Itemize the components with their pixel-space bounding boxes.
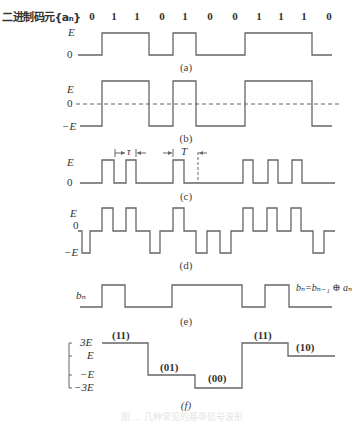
symbol-00: (00)	[208, 373, 226, 384]
label-f-negE: −E	[80, 369, 94, 380]
period-label: T	[181, 146, 187, 157]
caption-d: (d)	[180, 259, 193, 271]
differential-formula: bₙ=bₙ₋₁ ⊕ aₙ	[296, 283, 352, 293]
caption-c: (c)	[180, 190, 192, 202]
label-c-0: 0	[67, 177, 73, 188]
label-f-neg3E: −3E	[74, 382, 94, 393]
label-d-E: E	[70, 208, 77, 219]
caption-b: (b)	[180, 132, 193, 144]
label-a-E: E	[68, 27, 75, 38]
label-b-negE: −E	[62, 121, 76, 132]
tau-label: τ	[127, 147, 131, 157]
waveform-a	[78, 33, 332, 55]
symbol-01: (01)	[160, 362, 178, 373]
label-bn: bₙ	[76, 290, 86, 301]
symbol-10: (10)	[296, 342, 314, 353]
label-f-3E: 3E	[80, 337, 92, 348]
waveform-c	[80, 160, 335, 183]
caption-a: (a)	[180, 61, 192, 73]
label-d-negE: −E	[64, 247, 78, 258]
label-a-0: 0	[67, 49, 73, 60]
label-b-0: 0	[67, 98, 73, 109]
symbol-11-first: (11)	[112, 330, 130, 341]
label-f-E: E	[87, 350, 94, 361]
caption-e: (e)	[180, 315, 192, 327]
figure-caption: 图 … 几种常见的基带信号波形	[121, 410, 244, 423]
symbol-11-second: (11)	[254, 330, 272, 341]
waveform-e	[80, 285, 332, 307]
label-b-E: E	[67, 84, 74, 95]
label-d-0: 0	[73, 220, 79, 231]
level-axis	[69, 343, 72, 388]
label-c-E: E	[67, 157, 74, 168]
waveform-d	[78, 208, 335, 253]
